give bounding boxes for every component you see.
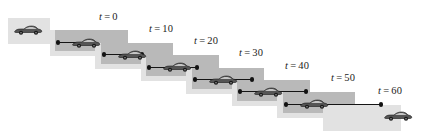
time-variable: t: [378, 85, 381, 96]
equals-sign: =: [199, 35, 205, 46]
time-value: 20: [207, 35, 218, 46]
equals-sign: =: [290, 60, 296, 71]
car-icon: [117, 49, 147, 61]
time-label-10: t=10: [149, 23, 173, 34]
car-icon: [13, 24, 43, 36]
time-label-20: t=20: [194, 35, 218, 46]
time-label-40: t=40: [285, 60, 309, 71]
time-variable: t: [149, 23, 152, 34]
time-label-30: t=30: [239, 47, 263, 58]
time-value: 10: [162, 23, 173, 34]
car-icon: [253, 86, 283, 98]
car-icon: [299, 98, 329, 110]
time-value: 40: [298, 60, 309, 71]
car-icon: [383, 110, 413, 122]
car-icon: [71, 37, 101, 49]
time-variable: t: [331, 72, 334, 83]
car-icon: [162, 61, 192, 73]
time-label-50: t=50: [331, 72, 355, 83]
time-label-0: t=0: [99, 11, 118, 22]
time-value: 0: [112, 11, 117, 22]
time-variable: t: [285, 60, 288, 71]
equals-sign: =: [336, 72, 342, 83]
equals-sign: =: [383, 85, 389, 96]
time-value: 50: [344, 72, 355, 83]
equals-sign: =: [104, 11, 110, 22]
time-value: 30: [252, 47, 263, 58]
time-variable: t: [239, 47, 242, 58]
car-motion-figure: t=0t=10t=20t=30t=40t=50t=60: [0, 0, 427, 134]
car-icon: [208, 74, 238, 86]
time-value: 60: [391, 85, 402, 96]
equals-sign: =: [154, 23, 160, 34]
time-variable: t: [99, 11, 102, 22]
equals-sign: =: [244, 47, 250, 58]
time-label-60: t=60: [378, 85, 402, 96]
time-variable: t: [194, 35, 197, 46]
